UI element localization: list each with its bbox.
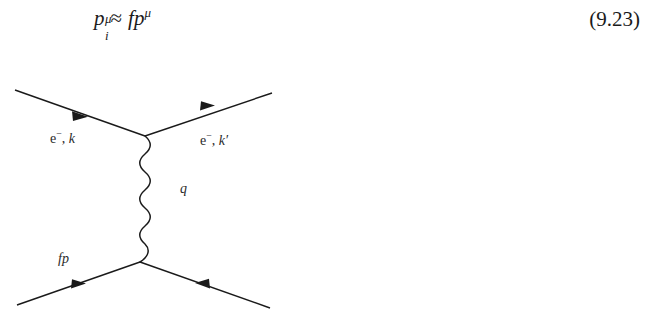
arrowhead-lower-right <box>195 279 210 289</box>
arrowhead-lower-left <box>71 279 86 288</box>
equation-row: pμi≈fpμ (9.23) <box>0 0 654 58</box>
arrowhead-upper-right <box>200 101 215 110</box>
photon-propagator-wave <box>140 136 151 262</box>
leg-outgoing-fermion-lower-right <box>140 262 270 308</box>
feynman-diagram-canvas <box>0 58 330 329</box>
label-incoming-electron: e−, k <box>50 129 75 146</box>
figure-page: pμi≈fpμ (9.23) <box>0 0 654 329</box>
equation-rhs-base: p <box>134 6 145 30</box>
equation-lhs-base: p <box>94 6 105 30</box>
label-propagator-momentum: q <box>180 182 187 196</box>
label-separator-right: , <box>212 133 219 148</box>
label-incoming-parton-momentum: fp <box>58 252 69 266</box>
label-momentum-k: k <box>69 131 75 146</box>
leg-line-upper-left <box>15 90 145 136</box>
feynman-diagram: e−, k e−, k′ q fp <box>0 58 330 329</box>
leg-incoming-fermion-lower-left <box>17 262 140 305</box>
equation-number: (9.23) <box>589 9 640 30</box>
label-outgoing-electron: e−, k′ <box>200 131 228 148</box>
equation-lhs-superscript: μ <box>105 12 112 25</box>
equation-rhs-superscript: μ <box>144 5 151 20</box>
equation-lhs-subscript: i <box>105 29 109 42</box>
equation-expression: pμi≈fpμ <box>94 8 151 29</box>
label-prime-mark: ′ <box>225 133 228 148</box>
label-separator-left: , <box>62 131 69 146</box>
leg-incoming-electron-upper-left <box>15 90 145 136</box>
